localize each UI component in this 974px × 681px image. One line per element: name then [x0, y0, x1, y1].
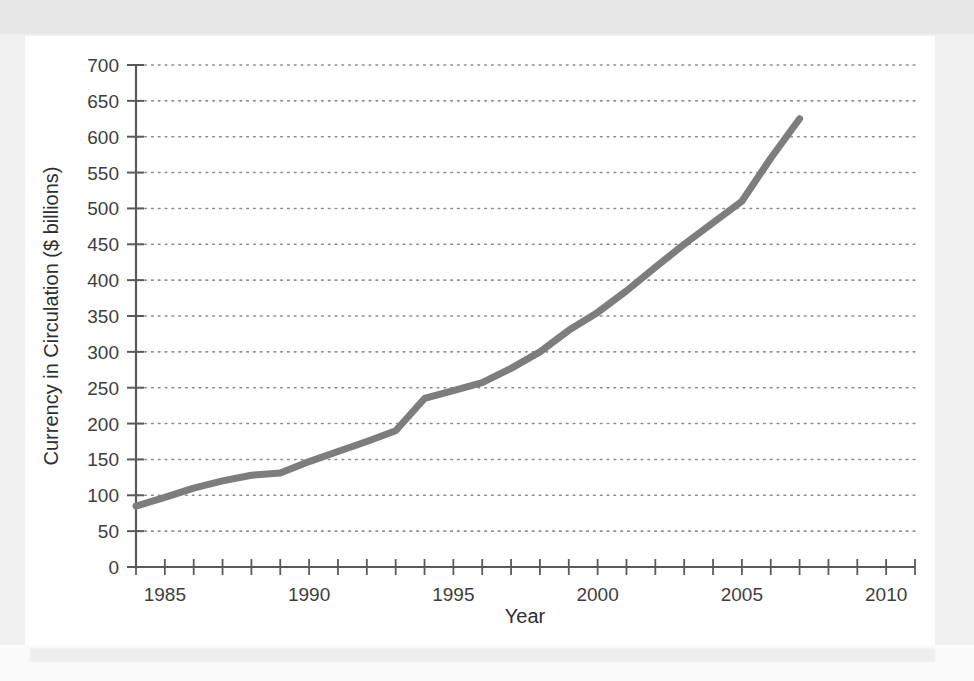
- y-tick-label: 300: [87, 342, 119, 363]
- y-tick-label: 0: [108, 557, 119, 578]
- scan-band-top: [0, 0, 974, 34]
- y-tick-label: 450: [87, 234, 119, 255]
- y-tick-label: 400: [87, 270, 119, 291]
- y-tick-label: 700: [87, 55, 119, 76]
- page-bleed-through: [30, 648, 935, 662]
- y-tick-label: 100: [87, 485, 119, 506]
- line-chart: 0501001502002503003504004505005506006507…: [25, 36, 935, 645]
- x-tick-label: 2005: [721, 584, 763, 605]
- x-axis-title: Year: [505, 605, 546, 627]
- data-series-group: [136, 119, 800, 506]
- x-axis-tick-labels: 198519901995200020052010: [144, 584, 908, 605]
- gridlines: [138, 65, 915, 531]
- x-tick-label: 1995: [432, 584, 474, 605]
- x-tick-label: 1990: [288, 584, 330, 605]
- figure-card: 0501001502002503003504004505005506006507…: [25, 36, 935, 645]
- x-tick-label: 1985: [144, 584, 186, 605]
- y-axis-tick-labels: 0501001502002503003504004505005506006507…: [87, 55, 119, 578]
- y-tick-label: 200: [87, 414, 119, 435]
- x-tick-label: 2000: [576, 584, 618, 605]
- y-tick-label: 600: [87, 127, 119, 148]
- y-tick-label: 50: [98, 521, 119, 542]
- y-tick-label: 250: [87, 378, 119, 399]
- y-tick-label: 150: [87, 449, 119, 470]
- scanned-page: 0501001502002503003504004505005506006507…: [0, 0, 974, 681]
- y-tick-label: 650: [87, 91, 119, 112]
- y-tick-label: 500: [87, 198, 119, 219]
- y-tick-label: 550: [87, 163, 119, 184]
- y-axis-title: Currency in Circulation ($ billions): [40, 167, 62, 466]
- y-tick-label: 350: [87, 306, 119, 327]
- series-line-currency-in-circulation: [136, 119, 800, 506]
- x-tick-label: 2010: [865, 584, 907, 605]
